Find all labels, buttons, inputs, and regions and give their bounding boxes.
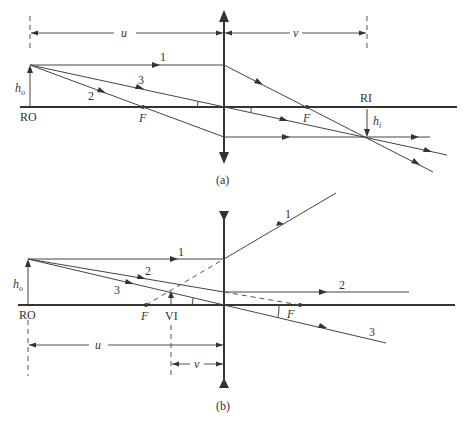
ray-2-out-label-b: 2 xyxy=(339,278,345,292)
angle-arc-right-b xyxy=(278,305,279,317)
v-label-b: v xyxy=(194,357,200,371)
ray-2-label-b: 2 xyxy=(145,264,151,278)
lens-arrow-down-icon xyxy=(219,152,229,164)
image-arrowhead-icon xyxy=(364,129,370,137)
ray-2-incident-b xyxy=(28,259,224,292)
lens-arrow-up-icon xyxy=(219,10,229,22)
ray-3-label-a: 3 xyxy=(138,73,144,87)
lens-tri-top-icon xyxy=(219,211,229,221)
lens-tri-bottom-icon xyxy=(219,378,229,388)
angle-arc-left-b xyxy=(192,298,193,305)
ray-diagram-figure: u v ho RO F F 1 2 3 xyxy=(0,0,475,428)
f-left-label-a: F xyxy=(138,111,147,125)
ray-1-label-b: 1 xyxy=(178,245,184,259)
ray-1-label-a: 1 xyxy=(160,50,166,64)
ro-label-a: RO xyxy=(20,110,37,124)
figure-b-diverging-lens: ho RO F F 1 1 2 2 3 3 VI xyxy=(13,193,455,413)
u-label-b: u xyxy=(95,338,101,352)
vi-label-b: VI xyxy=(165,309,178,323)
ray-2-label-a: 2 xyxy=(88,89,94,103)
ri-label-a: RI xyxy=(360,91,372,105)
f-right-label-a: F xyxy=(302,111,311,125)
figure-a-converging-lens: u v ho RO F F 1 2 3 xyxy=(15,10,457,187)
ho-label-a: ho xyxy=(15,81,25,97)
ray-1-virtual-b xyxy=(146,259,224,305)
ray-1-out-label-b: 1 xyxy=(285,207,291,221)
caption-a: (a) xyxy=(216,173,229,187)
u-label-a: u xyxy=(121,26,127,40)
ho-label-b: ho xyxy=(13,277,23,293)
ray-1-refracted-b xyxy=(224,193,336,259)
f-right-label-b: F xyxy=(286,307,295,321)
object-arrowhead-b-icon xyxy=(25,259,31,267)
ro-label-b: RO xyxy=(19,308,36,322)
diagram-canvas: u v ho RO F F 1 2 3 xyxy=(0,0,475,428)
ray-3-label-b: 3 xyxy=(114,283,120,297)
hi-label-a: hi xyxy=(373,114,381,130)
v-label-a: v xyxy=(293,26,299,40)
ray-3-b xyxy=(28,259,386,343)
ray-2-virtual-b xyxy=(224,292,300,305)
ray-3-a xyxy=(30,65,447,155)
ray-3-out-label-b: 3 xyxy=(369,325,375,339)
f-left-label-b: F xyxy=(140,309,149,323)
caption-b: (b) xyxy=(216,399,230,413)
